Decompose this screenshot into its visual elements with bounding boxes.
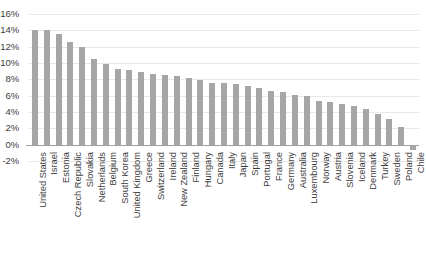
y-axis-tick-label: 2%: [0, 123, 19, 133]
x-axis-tick-label: Slovenia: [346, 152, 355, 188]
x-axis-tick-label: Netherlands: [98, 152, 107, 202]
x-axis-tick-label: Czech Republic: [74, 152, 83, 217]
x-axis-tick-label: Portugal: [263, 152, 272, 187]
y-axis-tick-label: 6%: [0, 91, 19, 101]
bar: [363, 109, 369, 145]
bar: [398, 127, 404, 145]
x-axis-tick-label: Poland: [405, 152, 414, 181]
bar: [386, 119, 392, 144]
x-axis-tick-labels: United StatesIsraelEstoniaCzech Republic…: [29, 152, 419, 277]
bar: [233, 84, 239, 144]
bar: [339, 104, 345, 145]
bar: [197, 80, 203, 145]
y-axis-tick-label: 0%: [0, 140, 19, 150]
x-axis-tick-label: Italy: [228, 152, 237, 169]
x-axis-tick-label: Luxembourg: [310, 152, 319, 204]
bar: [103, 64, 109, 145]
bar: [256, 88, 262, 144]
x-axis-tick-label: Israel: [50, 152, 59, 175]
plot-area: 16%14%12%10%8%6%4%2%0%-2%: [29, 14, 419, 161]
x-axis-tick-label: Slovakia: [86, 152, 95, 187]
y-axis-tick-label: 16%: [0, 9, 19, 19]
x-axis-tick-label: Turkey: [381, 152, 390, 180]
bar: [79, 47, 85, 144]
x-axis-tick-label: Iceland: [358, 152, 367, 182]
x-axis-tick-label: Canada: [216, 152, 225, 185]
bar: [221, 83, 227, 144]
bar: [375, 114, 381, 144]
y-axis-tick-label: 10%: [0, 58, 19, 68]
x-axis-tick-label: Australia: [299, 152, 308, 188]
x-axis-tick-label: Sweden: [393, 152, 402, 186]
x-axis-tick-label: Switzerland: [157, 152, 166, 200]
x-axis-tick-label: Austria: [334, 152, 343, 181]
bar: [150, 74, 156, 145]
y-axis-tick-label: 14%: [0, 25, 19, 35]
x-axis-tick-label: Hungary: [204, 152, 213, 187]
bar: [126, 70, 132, 144]
x-axis-tick-label: Chile: [417, 152, 426, 173]
x-axis-tick-label: New Zealand: [180, 152, 189, 207]
bar: [115, 69, 121, 145]
bar: [245, 86, 251, 145]
bar: [162, 75, 168, 144]
bar: [304, 96, 310, 144]
x-axis-tick-label: Belgium: [109, 152, 118, 186]
y-axis-tick-label: 4%: [0, 107, 19, 117]
x-axis-tick-label: United States: [39, 152, 48, 208]
bar: [67, 42, 73, 145]
x-axis-tick-label: South Korea: [121, 152, 130, 204]
bar: [327, 102, 333, 144]
bar: [56, 34, 62, 145]
x-axis-tick-label: Norway: [322, 152, 331, 184]
bar: [174, 76, 180, 145]
y-axis-tick-label: 12%: [0, 42, 19, 52]
x-axis-tick-label: Finland: [192, 152, 201, 183]
bar: [91, 59, 97, 145]
bar: [138, 72, 144, 145]
x-axis-tick-label: Greece: [145, 152, 154, 183]
x-axis-tick-label: Ireland: [169, 152, 178, 180]
x-axis-tick-label: United Kingdom: [133, 152, 142, 218]
bar: [44, 30, 50, 144]
y-axis-tick-label: 8%: [0, 74, 19, 84]
y-axis-tick-label: -2%: [0, 156, 19, 166]
x-axis-tick-label: France: [275, 152, 284, 181]
bar: [410, 145, 416, 150]
bar: [186, 78, 192, 145]
x-axis-tick-label: Denmark: [369, 152, 378, 190]
x-axis-tick-label: Japan: [239, 152, 248, 177]
x-axis-tick-label: Germany: [287, 152, 296, 190]
bar: [351, 106, 357, 144]
bar: [268, 91, 274, 145]
bar-series: [29, 14, 419, 161]
bar: [280, 92, 286, 144]
bar: [292, 95, 298, 145]
x-axis-tick-label: Estonia: [62, 152, 71, 183]
x-axis-tick-label: Spain: [251, 152, 260, 176]
bar: [209, 83, 215, 145]
bar: [316, 101, 322, 145]
bar: [32, 30, 38, 145]
